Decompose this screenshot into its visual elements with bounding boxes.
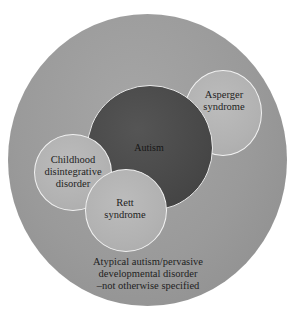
childhood-label-line-3: disorder: [44, 178, 101, 190]
rett-label-line-1: Rett: [104, 197, 145, 209]
atypical-label-line-3: –not otherwise specified: [93, 280, 203, 292]
autism-spectrum-diagram: Autism Asperger syndrome Childhood disin…: [0, 0, 299, 311]
childhood-label-line-1: Childhood: [44, 154, 101, 166]
childhood-disintegrative-label: Childhood disintegrative disorder: [44, 154, 101, 190]
rett-syndrome-label: Rett syndrome: [104, 197, 145, 221]
childhood-label-line-2: disintegrative: [44, 166, 101, 178]
asperger-label: Asperger syndrome: [203, 89, 244, 113]
autism-label: Autism: [134, 142, 163, 154]
atypical-label-line-2: developmental disorder: [93, 268, 203, 280]
asperger-label-line-1: Asperger: [203, 89, 244, 101]
atypical-autism-label: Atypical autism/pervasive developmental …: [93, 256, 203, 292]
asperger-label-line-2: syndrome: [203, 101, 244, 113]
autism-label-text: Autism: [134, 142, 163, 154]
atypical-label-line-1: Atypical autism/pervasive: [93, 256, 203, 268]
rett-label-line-2: syndrome: [104, 209, 145, 221]
